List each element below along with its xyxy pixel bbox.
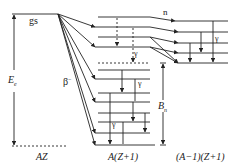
daughter-nucleus-label: A(Z+1) [108,152,138,162]
binding-energy-label: Bn [158,101,167,113]
ground-state-label: gs [29,16,38,26]
neutron-label: n [163,8,168,17]
decay-energy-label: Ee [8,75,17,87]
neutron-emission-arrows [150,17,178,63]
daughter-levels [95,17,155,145]
gamma-label-2: γ [138,80,142,88]
gamma-label-1: γ [134,50,138,58]
beta-minus-label: β− [63,76,71,87]
gamma-label-3: γ [112,121,116,129]
parent-nucleus-label: AZ [36,152,48,162]
final-gamma-arrows [190,21,213,62]
gamma-label-4: γ [215,35,219,43]
final-nucleus-label: (A−1)(Z+1) [176,152,225,162]
final-nucleus-levels [175,21,228,63]
